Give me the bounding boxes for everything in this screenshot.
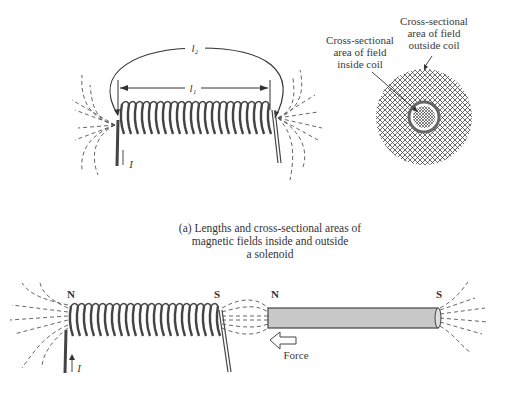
fringe-field-magnet-right bbox=[440, 282, 488, 352]
fringe-field-left bbox=[72, 75, 115, 175]
solenoid-south-label: S bbox=[214, 288, 220, 300]
solenoid-north-label: N bbox=[67, 288, 75, 300]
label-outside-line1: Cross-sectional bbox=[384, 15, 484, 27]
solenoid-a bbox=[72, 48, 322, 180]
field-between bbox=[222, 300, 268, 334]
force-arrow-icon bbox=[270, 332, 296, 349]
caption-a: (a) Lengths and cross-sectional areas of… bbox=[160, 222, 380, 261]
l1-label: l₁ bbox=[185, 82, 201, 94]
solenoid-diagram bbox=[0, 0, 506, 402]
bar-magnet bbox=[268, 308, 438, 328]
l2-label: l₂ bbox=[185, 42, 205, 54]
magnet-north-label: N bbox=[271, 288, 279, 300]
label-outside-line2: area of field bbox=[384, 27, 484, 39]
current-label-b: I bbox=[74, 362, 84, 374]
fringe-field-b-left bbox=[10, 283, 68, 368]
force-label: Force bbox=[276, 349, 316, 361]
caption-line2: magnetic fields inside and outside bbox=[160, 235, 380, 248]
label-outside-line3: outside coil bbox=[384, 39, 484, 51]
solenoid-b bbox=[10, 282, 488, 373]
fringe-field-right bbox=[278, 70, 322, 180]
current-label-a: I bbox=[126, 158, 136, 170]
label-inside-line3: inside coil bbox=[300, 58, 420, 70]
caption-line1: (a) Lengths and cross-sectional areas of bbox=[160, 222, 380, 235]
label-outside-coil: Cross-sectional area of field outside co… bbox=[384, 15, 484, 51]
magnet-south-label: S bbox=[436, 288, 442, 300]
caption-line3: a solenoid bbox=[160, 248, 380, 261]
cross-section-diagram bbox=[372, 56, 472, 165]
